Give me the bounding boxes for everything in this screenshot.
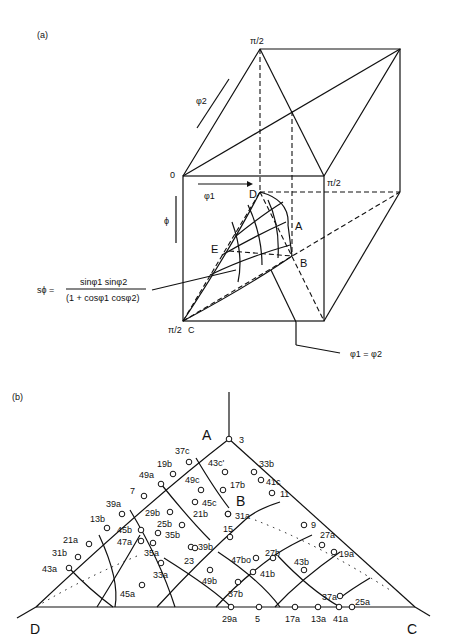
vertex-a-label: A (295, 220, 303, 232)
data-point-label: 31a (235, 511, 250, 521)
data-point-label: 43a (42, 564, 57, 574)
data-point-marker (141, 493, 147, 499)
data-point-label: 45a (120, 589, 135, 599)
data-point-label: 11 (280, 489, 289, 499)
data-point-marker (158, 481, 164, 487)
data-point-label: 43c' (208, 458, 225, 468)
data-point-marker (337, 593, 343, 599)
data-point-label: 41b (260, 569, 275, 579)
vertex-b: B (236, 493, 245, 509)
data-point-marker (258, 477, 264, 483)
data-point-marker (198, 487, 204, 493)
data-point-marker (86, 541, 92, 547)
data-point-marker (253, 555, 259, 561)
right-pi2-label: π/2 (327, 178, 341, 188)
data-point-label: 29a (222, 614, 237, 624)
data-point-marker (119, 511, 125, 517)
data-point-label: 41c (266, 477, 281, 487)
data-point-marker (192, 545, 198, 551)
panel-a-label: (a) (37, 30, 48, 40)
data-point-label: 13a (311, 614, 326, 624)
formula-numerator: sinφ1 sinφ2 (80, 277, 127, 287)
data-point-marker (301, 522, 307, 528)
data-point-label: 9 (311, 520, 316, 530)
bottom-pi2-label: π/2 (168, 325, 182, 335)
data-point-marker (150, 540, 156, 546)
data-point-label: 49c (185, 475, 200, 485)
data-point-marker (256, 604, 262, 610)
vertex-d: D (30, 621, 40, 637)
data-point-label: 5 (255, 614, 260, 624)
vertex-e-label: E (211, 243, 218, 255)
panel-b-label: (b) (12, 392, 23, 402)
data-point-label: 33a (153, 570, 168, 580)
data-point-label: 15 (223, 524, 233, 534)
data-point-marker (75, 554, 81, 560)
panel-b-triangle-diagram: (b) 337c19b49a739a13b21a31b43a43c'49c17b… (12, 392, 430, 637)
data-point-marker (292, 604, 298, 610)
data-point-marker (179, 522, 185, 528)
data-point-label: 45b (117, 525, 132, 535)
data-point-marker (315, 604, 321, 610)
data-point-marker (319, 542, 325, 548)
data-point-marker (235, 579, 241, 585)
data-point-marker (331, 549, 337, 555)
data-point-label: 33b (259, 459, 274, 469)
formula-lhs: sϕ = (37, 285, 54, 295)
data-point-label: 45c (202, 498, 217, 508)
vertex-c: C (407, 621, 417, 637)
data-point-label: 39a (106, 499, 121, 509)
data-point-marker (170, 471, 176, 477)
data-point-label: 21a (63, 535, 78, 545)
data-point-marker (192, 499, 198, 505)
data-point-marker (66, 565, 72, 571)
data-point-label: 39b (198, 542, 213, 552)
data-point-label: 35b (165, 530, 180, 540)
phi2-label: φ2 (196, 96, 207, 106)
data-point-label: 25b (157, 519, 172, 529)
data-point-label: 49b (202, 576, 217, 586)
data-point-label: 47a (117, 537, 132, 547)
data-point-label: 19b (157, 459, 172, 469)
data-point-marker (207, 567, 213, 573)
data-point-label: 31b (52, 548, 67, 558)
data-point-marker (301, 567, 307, 573)
data-point-marker (158, 560, 164, 566)
data-point-marker (269, 490, 275, 496)
data-point-marker (228, 604, 234, 610)
data-point-label: 27a (320, 530, 335, 540)
data-point-label: 27b (265, 548, 280, 558)
data-point-label: 43b (294, 557, 309, 567)
data-point-marker (227, 534, 233, 540)
data-point-marker (225, 511, 231, 517)
data-point-marker (226, 436, 232, 442)
data-point-marker (138, 527, 144, 533)
data-points: 337c19b49a739a13b21a31b43a43c'49c17b45c2… (42, 435, 370, 624)
data-point-marker (167, 509, 173, 515)
data-point-label: 25a (355, 597, 370, 607)
data-point-marker (104, 525, 110, 531)
data-point-label: 3 (239, 435, 244, 445)
data-point-label: 47bo (231, 555, 251, 565)
data-point-label: 29b (145, 508, 160, 518)
formula-denominator: (1 + cosφ1 cosφ2) (66, 293, 139, 303)
data-point-marker (336, 604, 342, 610)
data-point-label: 7 (130, 486, 135, 496)
data-point-label: 37a (322, 592, 337, 602)
top-pi2-label: π/2 (250, 36, 264, 46)
data-point-marker (138, 538, 144, 544)
data-point-marker (186, 459, 192, 465)
phi1-label: φ1 (204, 191, 215, 201)
data-point-label: 35a (144, 548, 159, 558)
data-point-label: 17b (230, 480, 245, 490)
equal-angles-label: φ1 = φ2 (350, 349, 382, 359)
vertex-d-label: D (249, 188, 257, 200)
vertex-a: A (202, 427, 212, 443)
Phi-label: ϕ (164, 216, 169, 226)
vertex-c-label: C (188, 325, 195, 335)
data-point-label: 37c (175, 446, 190, 456)
data-point-label: 21b (193, 509, 208, 519)
data-point-marker (250, 569, 256, 575)
data-point-marker (220, 487, 226, 493)
data-point-marker (155, 530, 161, 536)
